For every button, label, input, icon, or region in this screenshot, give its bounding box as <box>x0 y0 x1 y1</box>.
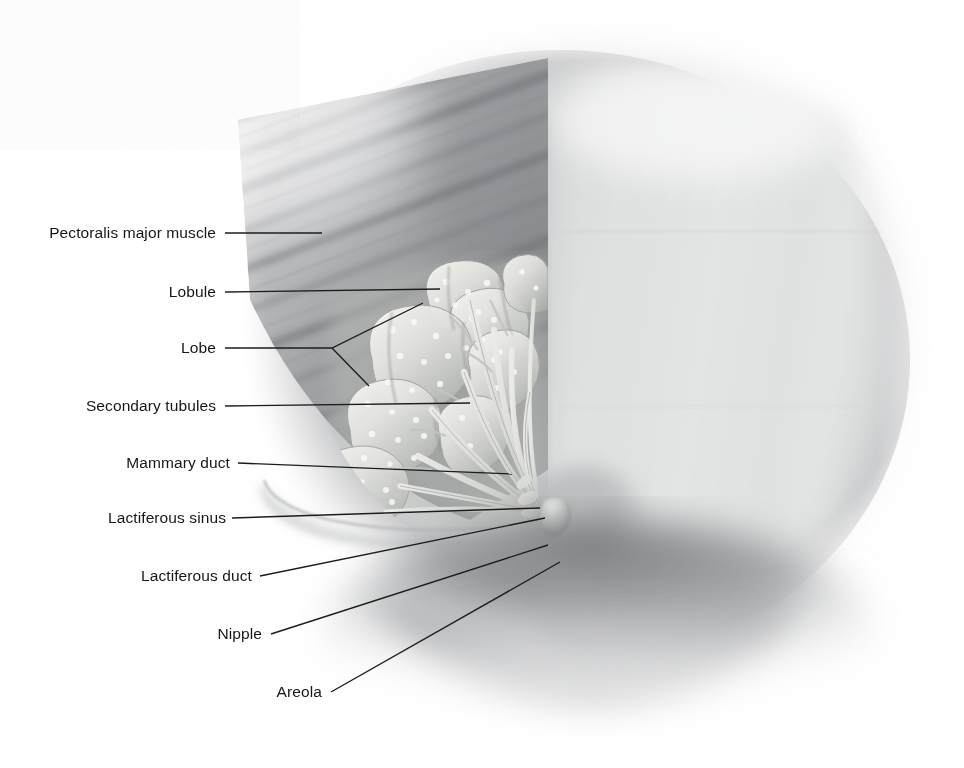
breast-anatomy-figure: Pectoralis major muscleLobuleLobeSeconda… <box>0 0 964 768</box>
breast-anatomy-illustration <box>0 0 964 768</box>
label-pectoralis-major-muscle: Pectoralis major muscle <box>49 225 216 241</box>
label-lobule: Lobule <box>169 284 216 300</box>
label-areola: Areola <box>277 684 322 700</box>
label-lactiferous-duct: Lactiferous duct <box>141 568 252 584</box>
label-lobe: Lobe <box>181 340 216 356</box>
label-lactiferous-sinus: Lactiferous sinus <box>108 510 226 526</box>
label-secondary-tubules: Secondary tubules <box>86 398 216 414</box>
label-nipple: Nipple <box>217 626 262 642</box>
label-mammary-duct: Mammary duct <box>126 455 230 471</box>
